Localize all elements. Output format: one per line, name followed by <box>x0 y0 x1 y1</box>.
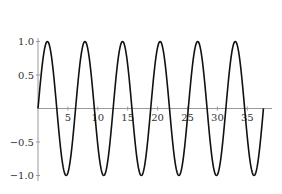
x-tick-label: 20 <box>151 112 164 123</box>
y-tick-label: 1.0 <box>18 36 34 47</box>
y-tick-label: 0.5 <box>18 70 34 81</box>
sine-wave-chart: 51015202530351.00.5−0.5−1.0 <box>0 0 282 194</box>
y-tick-label: −0.5 <box>10 137 34 148</box>
y-tick-label: −1.0 <box>10 170 34 181</box>
x-tick-label: 10 <box>91 112 104 123</box>
x-tick-label: 35 <box>241 112 254 123</box>
x-tick-label: 30 <box>211 112 224 123</box>
x-tick-label: 5 <box>65 112 71 123</box>
